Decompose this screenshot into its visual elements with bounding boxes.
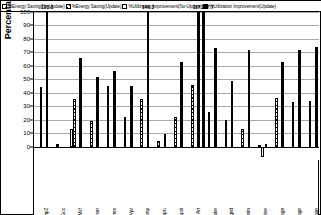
plot-area-wrapper: Percentage 1009080706050403020100 123.81… xyxy=(1,12,321,215)
plot-area: 123.8146.3117.2167.7 xyxy=(33,12,319,160)
bar-energy-saving-update xyxy=(124,117,127,147)
bar-utilization-improvement-update xyxy=(46,12,49,147)
bar-energy-saving-update xyxy=(107,86,110,147)
bar-energy-saving-update xyxy=(174,117,177,147)
bar-utilization-improvement-update xyxy=(248,50,251,147)
x-axis-category-label: Int. Average xyxy=(280,208,285,215)
y-axis-title: Percentage xyxy=(3,0,13,50)
y-axis-ticks: 1009080706050403020100 xyxy=(13,12,33,160)
x-axis-category-label: Wupwise xyxy=(263,208,268,215)
x-axis-category-label: Average xyxy=(314,208,319,215)
bar-utilization-improvement-update xyxy=(180,62,183,147)
bar-utilization-improvement-update xyxy=(197,12,200,147)
x-axis-category-label: Vortex xyxy=(112,208,117,215)
bar-utilization-improvement-update xyxy=(202,12,205,147)
bar-value-label: 146.3 xyxy=(142,5,154,10)
x-axis-category-label: Mgrid xyxy=(229,208,234,215)
x-axis-category-label: Ammp xyxy=(145,208,150,215)
y-axis-tick-label: 90 xyxy=(23,22,30,28)
bar-energy-saving-update xyxy=(241,129,244,146)
legend-item-utilization-improvement-no-update: %Utilization Improvement(No-Update) xyxy=(121,1,202,12)
bar-value-label: 123.8 xyxy=(41,5,53,10)
bar-energy-saving-update xyxy=(208,112,211,147)
legend-swatch-hatched-icon xyxy=(66,4,71,9)
bar-utilization-improvement-update xyxy=(214,48,217,146)
bar-energy-saving-update xyxy=(225,120,228,147)
bar-utilization-improvement-update xyxy=(164,134,167,146)
bar-energy-saving-update xyxy=(157,141,160,146)
legend-label: %Energy Saving(No-Update) xyxy=(8,4,65,9)
y-axis-tick-label: 70 xyxy=(23,49,30,55)
bar-value-label: 167.7 xyxy=(202,5,214,10)
y-axis-tick-label: 60 xyxy=(23,63,30,69)
bar-energy-saving-update xyxy=(191,85,194,147)
x-axis-category-label: Apsi xyxy=(179,208,184,215)
bar-utilization-improvement-update xyxy=(147,12,150,147)
x-axis-category-label: FP Average xyxy=(297,208,302,215)
bar-utilization-improvement-update xyxy=(96,77,99,147)
bar-utilization-improvement-update xyxy=(315,47,318,147)
x-axis-category-label: Swim xyxy=(246,208,251,215)
bar-energy-saving-update xyxy=(292,102,295,146)
legend-swatch-open-white-icon xyxy=(122,4,127,9)
legend-item-energy-saving-update: %Energy Saving(Update) xyxy=(65,1,122,12)
bar-energy-saving-update xyxy=(275,98,278,146)
bar-utilization-improvement-update xyxy=(265,144,268,147)
y-axis-tick-label: 40 xyxy=(23,90,30,96)
bar-series-group: 123.8146.3117.2167.7 xyxy=(34,12,319,160)
bar-utilization-improvement-update xyxy=(130,86,133,147)
legend-label: %Energy Saving(Update) xyxy=(72,4,122,9)
y-axis-tick-label: 10 xyxy=(23,130,30,136)
bar-utilization-improvement-update xyxy=(298,50,301,147)
x-axis-category-label: Applu xyxy=(162,208,167,215)
x-axis-category-label: Gcc xyxy=(61,208,66,215)
x-axis-category-label: Vpr xyxy=(129,208,134,215)
bar-energy-saving-update xyxy=(73,99,76,146)
bar-energy-saving-update xyxy=(90,121,93,147)
x-axis-category-label: Equake xyxy=(213,208,218,215)
legend-label: %Utilization Improvement(No-Update) xyxy=(128,4,202,9)
x-axis-category-label: Parser xyxy=(95,208,100,215)
bar-energy-saving-update xyxy=(140,99,143,146)
y-axis-tick-label: 80 xyxy=(23,36,30,42)
chart-container: %Energy Saving(No-Update) %Energy Saving… xyxy=(0,0,321,215)
x-axis-category-label: Mcf xyxy=(78,208,83,215)
bar-energy-saving-update xyxy=(309,101,312,147)
bar-energy-saving-update xyxy=(40,87,43,146)
legend-label: %Utilization Improvement(Update) xyxy=(209,4,276,9)
x-axis-category-label: Bzip2 xyxy=(44,208,49,215)
y-axis-tick-label: 20 xyxy=(23,117,30,123)
x-axis-category-label: Art xyxy=(196,208,201,214)
bar-utilization-improvement-update xyxy=(281,62,284,147)
bar-utilization-improvement-update xyxy=(79,58,82,147)
y-axis-tick-label: 50 xyxy=(23,76,30,82)
bar-utilization-improvement-update xyxy=(231,81,234,147)
x-axis-category-labels: Bzip2GccMcfParserVortexVprAmmpAppluApsiA… xyxy=(33,160,319,215)
y-axis-tick-label: 30 xyxy=(23,103,30,109)
y-axis-tick-label: 100 xyxy=(20,9,30,15)
bar-utilization-improvement-update xyxy=(113,71,116,146)
bar-energy-saving-update xyxy=(56,144,59,147)
bar-utilization-improvement-no-update xyxy=(261,147,264,158)
